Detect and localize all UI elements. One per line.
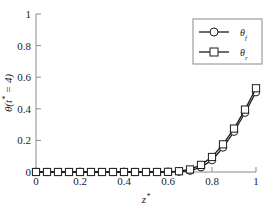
- svg-text:θ(t* = 4): θ(t* = 4): [1, 74, 16, 113]
- x-tick-label-3: 0.6: [161, 175, 175, 187]
- y-tick-label-3: 0.6: [17, 71, 31, 83]
- chart-figure: 0 0.2 0.4 0.6 0.8 1 0 0.2 0.4 0.6 0.8 1 …: [0, 0, 269, 213]
- data-point-square: [109, 168, 116, 175]
- x-tick-labels: 0 0.2 0.4 0.6 0.8 1: [33, 175, 259, 187]
- y-tick-labels: 0 0.2 0.4 0.6 0.8 1: [17, 8, 31, 178]
- data-point-square: [76, 168, 83, 175]
- y-axis-title: θ(t* = 4): [1, 74, 16, 113]
- data-point-square: [87, 168, 94, 175]
- data-point-square: [120, 168, 127, 175]
- data-series-layer: [32, 85, 259, 176]
- legend-box: [193, 19, 262, 64]
- y-tick-marks: [36, 14, 41, 172]
- data-point-square: [98, 168, 105, 175]
- legend-circle-marker-icon: [210, 28, 218, 36]
- data-point-square: [230, 125, 237, 132]
- y-tick-label-2: 0.4: [17, 103, 31, 115]
- svg-text:z*: z*: [141, 192, 150, 206]
- x-tick-label-2: 0.4: [117, 175, 131, 187]
- x-axis-title: z*: [141, 192, 150, 206]
- data-point-square: [54, 168, 61, 175]
- data-point-square: [32, 168, 39, 175]
- data-point-square: [241, 106, 248, 113]
- data-point-square: [197, 161, 204, 168]
- data-point-square: [252, 85, 259, 92]
- x-axis-title-star: *: [146, 192, 150, 201]
- data-point-square: [131, 168, 138, 175]
- data-point-square: [208, 153, 215, 160]
- y-tick-label-1: 0.2: [17, 134, 31, 146]
- data-point-square: [153, 168, 160, 175]
- data-point-square: [65, 168, 72, 175]
- data-point-square: [175, 168, 182, 175]
- y-tick-label-4: 0.8: [17, 40, 31, 52]
- series-line-θr: [36, 88, 256, 172]
- y-axis-title-eq: = 4): [2, 74, 15, 96]
- series-line-θf: [36, 92, 256, 172]
- data-point-square: [142, 168, 149, 175]
- y-tick-label-5: 1: [26, 8, 32, 20]
- x-tick-label-4: 0.8: [205, 175, 219, 187]
- data-point-square: [219, 141, 226, 148]
- data-point-square: [164, 168, 171, 175]
- series-θf: [32, 89, 259, 176]
- x-tick-label-1: 0.2: [73, 175, 87, 187]
- x-tick-label-0: 0: [33, 175, 39, 187]
- line-chart: 0 0.2 0.4 0.6 0.8 1 0 0.2 0.4 0.6 0.8 1 …: [0, 0, 269, 213]
- legend-square-marker-icon: [210, 48, 218, 56]
- y-tick-label-0: 0: [26, 166, 32, 178]
- x-tick-label-5: 1: [253, 175, 259, 187]
- data-point-square: [43, 168, 50, 175]
- data-point-square: [186, 166, 193, 173]
- series-θr: [32, 85, 259, 176]
- chart-legend: θf θr: [193, 19, 262, 64]
